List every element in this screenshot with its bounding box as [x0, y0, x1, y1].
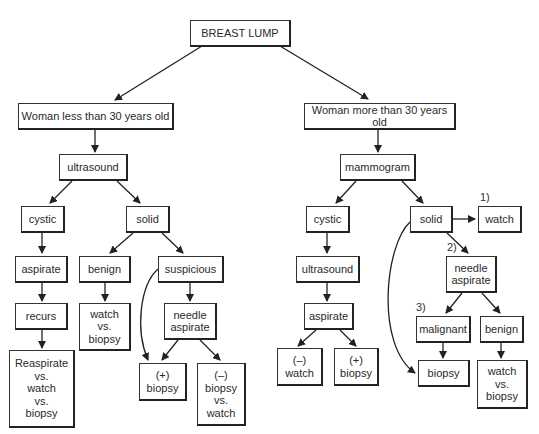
- node-label: benign: [88, 263, 121, 276]
- node-young-cystic: cystic: [21, 206, 65, 233]
- node-young-negative-biopsy-vs-watch: (–) biopsy vs. watch: [197, 363, 246, 426]
- node-label: watch: [485, 213, 514, 226]
- node-label: biopsy: [428, 367, 460, 380]
- node-old-mammogram: mammogram: [340, 154, 416, 181]
- node-label-line: biopsy: [26, 407, 58, 420]
- node-label: Woman less than 30 years old: [22, 110, 170, 123]
- node-label-line: watch: [27, 382, 56, 395]
- node-label-line: vs.: [97, 320, 111, 333]
- node-label: cystic: [29, 213, 57, 226]
- node-label-line: aspirate: [170, 321, 209, 334]
- node-label: recurs: [26, 310, 57, 323]
- node-young-positive-biopsy: (+) biopsy: [139, 363, 187, 401]
- node-label: solid: [136, 213, 159, 226]
- node-label-line: watch: [90, 308, 119, 321]
- node-old-biopsy: biopsy: [418, 360, 470, 387]
- node-label-line: watch: [207, 407, 236, 420]
- node-label-line: needle: [173, 309, 206, 322]
- node-label: mammogram: [345, 161, 410, 174]
- node-young-needle-aspirate: needle aspirate: [164, 303, 217, 340]
- node-old-watch-vs-biopsy: watch vs. biopsy: [477, 360, 528, 409]
- option-label-3: 3): [416, 301, 426, 313]
- node-young-benign: benign: [79, 256, 131, 283]
- node-label-line: watch: [285, 367, 314, 380]
- node-label: aspirate: [309, 310, 348, 323]
- node-label-line: biopsy: [340, 367, 372, 380]
- node-young-reaspirate: Reaspirate vs. watch vs. biopsy: [9, 350, 75, 428]
- node-woman-over-30: Woman more than 30 years old: [304, 103, 456, 130]
- node-old-needle-aspirate: needle aspirate: [446, 256, 497, 293]
- node-old-solid: solid: [410, 206, 453, 233]
- node-label-line: (+): [156, 369, 170, 382]
- node-label: BREAST LUMP: [201, 27, 278, 40]
- node-label-line: vs.: [214, 394, 228, 407]
- option-label-2: 2): [447, 241, 457, 253]
- node-young-recurs: recurs: [15, 303, 68, 330]
- node-label: ultrasound: [302, 263, 353, 276]
- node-label-line: (+): [349, 354, 363, 367]
- node-old-malignant: malignant: [416, 316, 471, 343]
- node-old-positive-biopsy: (+) biopsy: [334, 348, 379, 386]
- node-young-aspirate: aspirate: [15, 256, 68, 283]
- node-label-line: biopsy: [89, 333, 121, 346]
- node-label-line: biopsy: [486, 390, 518, 403]
- node-young-watch-vs-biopsy: watch vs. biopsy: [79, 303, 131, 351]
- node-label: benign: [485, 323, 518, 336]
- node-old-cystic: cystic: [306, 206, 350, 233]
- node-label-line: watch: [488, 365, 517, 378]
- node-breast-lump: BREAST LUMP: [190, 20, 291, 47]
- node-label: solid: [420, 213, 443, 226]
- node-woman-under-30: Woman less than 30 years old: [18, 103, 174, 130]
- node-label: aspirate: [21, 263, 60, 276]
- node-old-ultrasound: ultrasound: [296, 256, 360, 283]
- node-old-watch: watch: [478, 206, 522, 233]
- node-label-line: (–): [214, 369, 227, 382]
- node-old-aspirate: aspirate: [304, 303, 354, 330]
- node-label-line: needle: [454, 262, 487, 275]
- node-young-ultrasound: ultrasound: [59, 154, 128, 181]
- option-label-1: 1): [480, 191, 490, 203]
- node-label-line: vs.: [34, 395, 48, 408]
- node-young-suspicious: suspicious: [158, 256, 224, 283]
- node-old-benign: benign: [480, 316, 524, 343]
- node-label-line: vs.: [495, 378, 509, 391]
- node-label-line: aspirate: [451, 274, 490, 287]
- node-label-line: Reaspirate: [15, 357, 68, 370]
- node-old-negative-watch: (–) watch: [277, 348, 323, 386]
- node-label: cystic: [314, 213, 342, 226]
- node-label: malignant: [419, 323, 467, 336]
- node-label: ultrasound: [67, 161, 118, 174]
- node-label-line: vs.: [34, 370, 48, 383]
- node-young-solid: solid: [126, 206, 170, 233]
- node-label: suspicious: [165, 263, 216, 276]
- node-label-line: biopsy: [205, 382, 237, 395]
- node-label-line: biopsy: [147, 382, 179, 395]
- node-label: Woman more than 30 years old: [307, 104, 452, 129]
- node-label-line: (–): [293, 354, 306, 367]
